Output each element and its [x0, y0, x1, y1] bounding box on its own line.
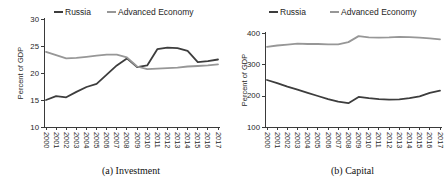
svg-text:2014: 2014	[405, 132, 414, 148]
svg-text:15: 15	[30, 96, 39, 105]
investment-caption: (a) Investment	[44, 165, 218, 176]
svg-text:2000: 2000	[263, 132, 272, 148]
svg-text:100: 100	[247, 123, 261, 132]
svg-text:2005: 2005	[313, 132, 322, 148]
investment-chart-panel: 1015202530200020012002200320042005200620…	[0, 0, 223, 191]
svg-text:2002: 2002	[283, 132, 292, 148]
svg-text:2006: 2006	[102, 132, 111, 148]
svg-text:2005: 2005	[92, 132, 101, 148]
svg-text:30: 30	[30, 15, 39, 24]
capital-chart-panel: 1002003004002000200120022003200420052006…	[223, 0, 446, 191]
svg-text:2017: 2017	[214, 132, 223, 148]
svg-text:2007: 2007	[334, 132, 343, 148]
advanced-economy-line-swatch-icon	[330, 11, 339, 13]
svg-text:2016: 2016	[203, 132, 212, 148]
svg-text:400: 400	[247, 29, 261, 38]
legend-item-advanced-economy: Advanced Economy	[330, 7, 417, 17]
svg-text:20: 20	[30, 69, 39, 78]
capital-legend: Russia Advanced Economy	[269, 7, 417, 17]
investment-plot: 1015202530200020012002200320042005200620…	[0, 0, 223, 191]
svg-text:2012: 2012	[163, 132, 172, 148]
legend-label-advanced-economy: Advanced Economy	[118, 7, 194, 17]
svg-text:2010: 2010	[143, 132, 152, 148]
svg-text:2014: 2014	[183, 132, 192, 148]
svg-text:2015: 2015	[415, 132, 424, 148]
svg-text:200: 200	[247, 91, 261, 100]
investment-y-axis-title: Percent of GDP	[16, 47, 25, 100]
svg-text:2015: 2015	[193, 132, 202, 148]
svg-text:2010: 2010	[364, 132, 373, 148]
svg-text:2004: 2004	[303, 132, 312, 148]
legend-label-russia: Russia	[65, 7, 91, 17]
svg-text:2016: 2016	[425, 132, 434, 148]
russia-line-swatch-icon	[269, 11, 278, 13]
svg-text:2008: 2008	[344, 132, 353, 148]
svg-text:2011: 2011	[153, 132, 162, 148]
legend-item-advanced-economy: Advanced Economy	[107, 7, 194, 17]
svg-text:2003: 2003	[293, 132, 302, 148]
svg-text:2008: 2008	[122, 132, 131, 148]
svg-text:2002: 2002	[62, 132, 71, 148]
advanced-economy-line-swatch-icon	[107, 11, 116, 13]
svg-text:2009: 2009	[133, 132, 142, 148]
svg-text:2004: 2004	[82, 132, 91, 148]
svg-text:2003: 2003	[72, 132, 81, 148]
svg-text:2000: 2000	[42, 132, 51, 148]
legend-item-russia: Russia	[54, 7, 91, 17]
svg-text:300: 300	[247, 60, 261, 69]
svg-text:2007: 2007	[112, 132, 121, 148]
legend-label-russia: Russia	[280, 7, 306, 17]
svg-text:2011: 2011	[374, 132, 383, 148]
capital-y-axis-title: Percent of GDP	[240, 54, 249, 107]
capital-caption: (b) Capital	[265, 165, 440, 176]
svg-text:2012: 2012	[385, 132, 394, 148]
svg-text:2001: 2001	[273, 132, 282, 148]
svg-text:2006: 2006	[324, 132, 333, 148]
svg-text:2013: 2013	[395, 132, 404, 148]
russia-line-swatch-icon	[54, 11, 63, 13]
svg-text:2017: 2017	[436, 132, 445, 148]
svg-text:25: 25	[30, 42, 39, 51]
legend-item-russia: Russia	[269, 7, 306, 17]
investment-legend: Russia Advanced Economy	[54, 7, 194, 17]
capital-plot: 1002003004002000200120022003200420052006…	[223, 0, 446, 191]
svg-text:2009: 2009	[354, 132, 363, 148]
svg-text:2001: 2001	[52, 132, 61, 148]
svg-text:10: 10	[30, 123, 39, 132]
legend-label-advanced-economy: Advanced Economy	[341, 7, 417, 17]
svg-text:2013: 2013	[173, 132, 182, 148]
